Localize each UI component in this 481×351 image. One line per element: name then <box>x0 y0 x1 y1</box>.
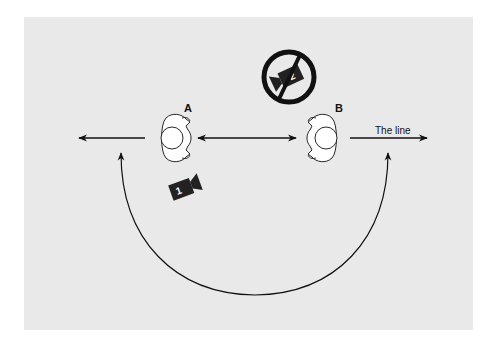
camera-2-prohibited-icon: 2 <box>264 52 314 102</box>
camera-axis-diagram: A B The line 1 2 <box>0 0 481 351</box>
character-a <box>161 114 191 161</box>
label-b: B <box>335 102 343 114</box>
camera-1-icon: 1 <box>167 173 202 201</box>
character-b <box>307 114 337 161</box>
line-caption: The line <box>375 125 411 136</box>
label-a: A <box>184 102 192 114</box>
character-b-head <box>315 127 337 149</box>
character-a-head <box>161 127 183 149</box>
camera-arc <box>121 153 388 295</box>
